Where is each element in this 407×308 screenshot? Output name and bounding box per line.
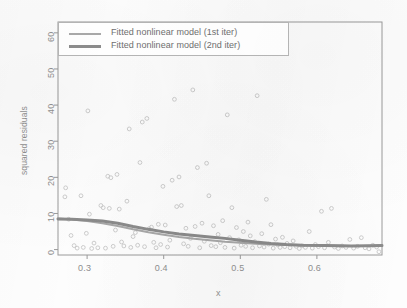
legend-swatch-1st-iter [69, 33, 101, 35]
y-tick-label: 20 [46, 176, 56, 186]
legend: Fitted nonlinear model (1st iter) Fitted… [58, 22, 289, 56]
x-tick-label: 0.6 [308, 263, 321, 273]
plot-frame [58, 22, 382, 255]
y-tick-label: 60 [46, 31, 56, 41]
y-tick-label: 50 [46, 68, 56, 78]
x-tick-label: 0.4 [155, 263, 168, 273]
legend-label-2nd-iter: Fitted nonlinear model (2nd iter) [111, 40, 240, 50]
scatter-points [63, 88, 381, 254]
legend-label-1st-iter: Fitted nonlinear model (1st iter) [111, 27, 237, 37]
y-tick-label: 30 [46, 140, 56, 150]
legend-item-2nd-iter: Fitted nonlinear model (2nd iter) [59, 40, 288, 53]
x-axis-title: x [216, 288, 221, 298]
legend-swatch-2nd-iter [69, 45, 101, 48]
figure-canvas: squared residuals x Fitted nonlinear mod… [0, 0, 407, 308]
y-tick-label: 0 [46, 249, 56, 254]
y-tick-label: 10 [46, 212, 56, 222]
y-axis-title: squared residuals [19, 106, 29, 175]
legend-item-1st-iter: Fitted nonlinear model (1st iter) [59, 27, 288, 40]
x-tick-label: 0.5 [231, 263, 244, 273]
y-tick-label: 40 [46, 104, 56, 114]
x-tick-label: 0.3 [78, 263, 91, 273]
